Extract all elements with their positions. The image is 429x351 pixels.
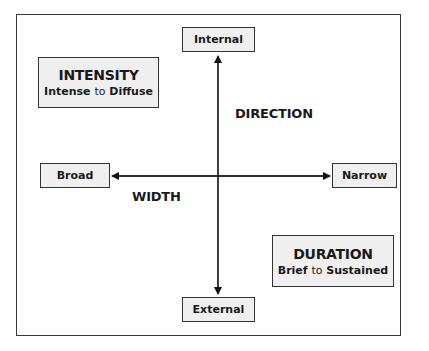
internal-label: Internal [194, 33, 243, 46]
external-node: External [182, 297, 255, 322]
direction-axis-label: DIRECTION [235, 106, 313, 121]
duration-range: Brief to Sustained [278, 264, 388, 277]
external-label: External [193, 303, 245, 316]
narrow-label: Narrow [342, 169, 387, 182]
intensity-range: Intense to Diffuse [44, 85, 153, 98]
intensity-title: INTENSITY [58, 67, 138, 83]
intensity-box: INTENSITY Intense to Diffuse [38, 57, 159, 108]
narrow-node: Narrow [332, 163, 397, 188]
broad-node: Broad [40, 163, 110, 188]
width-axis-label: WIDTH [132, 189, 181, 204]
internal-node: Internal [182, 27, 255, 52]
broad-label: Broad [57, 169, 94, 182]
duration-box: DURATION Brief to Sustained [272, 235, 394, 287]
duration-title: DURATION [293, 246, 373, 262]
